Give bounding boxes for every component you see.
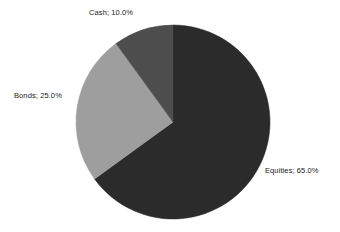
pie-chart-figure: Cash; 10.0% Bonds; 25.0% Equities; 65.0% [0,0,340,232]
pie-chart-canvas [0,0,340,232]
pie-label-cash: Cash; 10.0% [89,8,133,18]
pie-label-bonds: Bonds; 25.0% [14,91,62,101]
pie-slice-group [76,25,270,219]
pie-label-equities: Equities; 65.0% [265,166,319,176]
